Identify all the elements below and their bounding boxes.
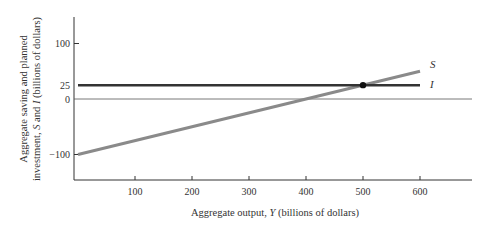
x-tick-label: 500 [356, 186, 371, 197]
y-tick-label: 0 [65, 94, 70, 105]
y-tick-label: −100 [49, 149, 70, 160]
svg-text:investment, S and I (billions: investment, S and I (billions of dollars… [31, 16, 43, 181]
x-tick-label: 300 [242, 186, 257, 197]
series-lines [78, 71, 420, 154]
y-tick-label: 100 [55, 38, 70, 49]
x-tick-label: 200 [185, 186, 200, 197]
x-tick-label: 600 [413, 186, 428, 197]
series-i-label: I [429, 78, 435, 90]
series-s-line [78, 71, 420, 154]
svg-text:Aggregate saving and planned: Aggregate saving and planned [18, 35, 29, 163]
axes [74, 17, 472, 180]
equilibrium-point [360, 82, 366, 88]
x-axis-title: Aggregate output, Y (billions of dollars… [191, 207, 359, 219]
x-tick-label: 100 [128, 186, 143, 197]
x-tick-label: 400 [299, 186, 314, 197]
series-s-label: S [430, 58, 436, 70]
y-tick-label: 25 [60, 80, 70, 91]
y-axis-title: Aggregate saving and plannedinvestment, … [18, 16, 43, 181]
saving-investment-chart: 100200300400500600100250−100 SIAggregate… [0, 0, 490, 229]
ticks: 100200300400500600100250−100 [49, 38, 427, 197]
